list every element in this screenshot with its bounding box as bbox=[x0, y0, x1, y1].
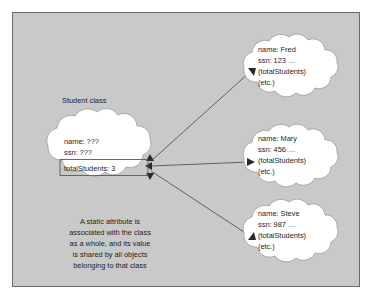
caption-line-2: associated with the class bbox=[69, 228, 151, 237]
mary-name-attribute: name: Mary bbox=[258, 134, 297, 143]
class-ssn-attribute: ssn: ??? bbox=[64, 148, 92, 157]
caption-line-3: as a whole, and its value bbox=[70, 239, 151, 248]
class-static-attribute: totalStudents: 3 bbox=[64, 164, 115, 173]
steve-ssn-attribute: ssn: 987 … bbox=[258, 220, 295, 229]
mary-static-reference: (totalStudents) bbox=[258, 156, 306, 165]
caption-line-1: A static attribute is bbox=[80, 217, 140, 226]
static-attribute-diagram: Student class name: ??? ssn: ??? totalSt… bbox=[0, 0, 374, 300]
steve-etc-label: (etc.) bbox=[258, 242, 275, 251]
steve-static-reference: (totalStudents) bbox=[258, 231, 306, 240]
diagram-page: Student class name: ??? ssn: ??? totalSt… bbox=[0, 0, 374, 300]
fred-static-reference: (totalStudents) bbox=[258, 67, 306, 76]
steve-name-attribute: name: Steve bbox=[258, 209, 300, 218]
connector-line-mary bbox=[151, 162, 249, 166]
connector-line-fred bbox=[151, 72, 250, 161]
caption-block: A static attribute is associated with th… bbox=[69, 217, 151, 270]
connector-line-steve bbox=[151, 171, 250, 236]
fred-ssn-attribute: ssn: 123 … bbox=[258, 56, 295, 65]
connector-group bbox=[151, 72, 250, 236]
fred-etc-label: (etc.) bbox=[258, 78, 275, 87]
mary-etc-label: (etc.) bbox=[258, 167, 275, 176]
caption-line-4: is shared by all objects bbox=[73, 250, 148, 259]
arrowhead-box-down bbox=[146, 173, 154, 180]
fred-name-attribute: name: Fred bbox=[258, 45, 296, 54]
arrowhead-group bbox=[145, 68, 256, 240]
caption-line-5: belonging to that class bbox=[73, 261, 147, 270]
mary-ssn-attribute: ssn: 456 … bbox=[258, 145, 295, 154]
arrowhead-box-left bbox=[145, 162, 152, 170]
object-cloud-fred-shape bbox=[243, 34, 338, 97]
class-title-label: Student class bbox=[62, 96, 107, 105]
object-cloud-fred-group bbox=[243, 34, 338, 97]
class-name-attribute: name: ??? bbox=[64, 137, 99, 146]
